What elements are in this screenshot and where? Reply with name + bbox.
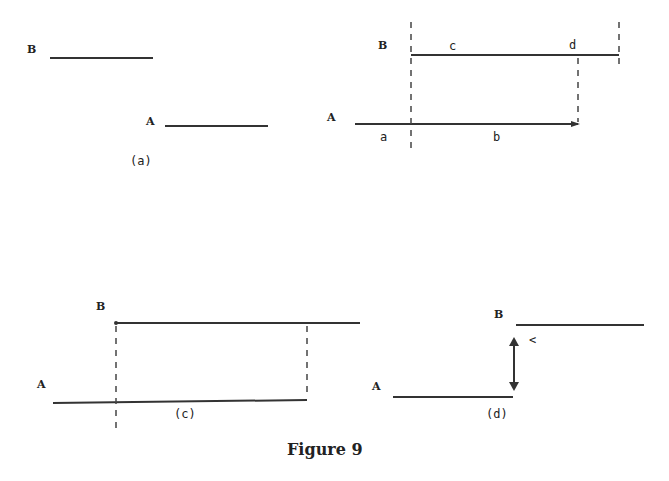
figure-caption: Figure 9 — [287, 442, 363, 458]
panel-c-label-b: B — [96, 301, 105, 312]
panel-d-label-b: B — [494, 309, 503, 320]
panel-d-arrow-label: < — [529, 334, 536, 346]
panel-b-segment-d: d — [569, 39, 576, 51]
panel-a-label-b: B — [27, 44, 36, 55]
panel-b-segment-b: b — [493, 131, 500, 143]
panel-d-arrowhead-up — [509, 337, 519, 346]
panel-d-caption: (d) — [486, 408, 508, 420]
panel-d-arrowhead-down — [509, 382, 519, 391]
panel-c-caption: (c) — [174, 408, 196, 420]
panel-c-line-a — [53, 400, 307, 403]
panel-b-label-a: A — [327, 112, 336, 123]
panel-a-label-a: A — [146, 116, 155, 127]
panel-b-segment-a: a — [380, 131, 387, 143]
panel-c-dot — [114, 321, 118, 325]
panel-d-label-a: A — [372, 381, 381, 392]
panel-a-caption: (a) — [130, 155, 152, 167]
figure-canvas — [0, 0, 669, 481]
panel-b-segment-c: c — [449, 40, 456, 52]
panel-c-label-a: A — [37, 379, 46, 390]
panel-b-label-b: B — [378, 40, 387, 51]
